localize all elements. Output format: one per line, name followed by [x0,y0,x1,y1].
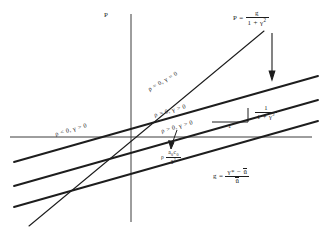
equation-p-lhs: P = [233,15,244,22]
slope-denominator: 1 + γ2 [255,113,277,121]
slope-triangle [212,108,248,122]
equation-p-fraction: g 1 + γ2 [246,10,269,27]
equation-g-fraction: γ* − ū ū [225,168,249,185]
slope-fraction: 1 1 + γ2 [255,105,277,120]
intercept-annotation: ρ a0c0 ā2 [161,150,181,166]
equation-g-definition: g = γ* − ū ū [213,168,249,185]
axis-label-p: P [104,12,108,19]
equation-p-denominator: 1 + γ2 [246,18,269,27]
intercept-denominator: ā2 [166,158,181,165]
intercept-rho: ρ [161,155,164,161]
down-arrow [269,33,275,80]
equation-g-denominator: ū [225,177,249,185]
intercept-fraction: a0c0 ā2 [166,150,181,166]
equation-g-lhs: g = [213,173,223,180]
slope-run-label: 1 [228,123,232,129]
equation-g-numerator: γ* − ū [225,168,249,177]
slope-value-label: 1 1 + γ2 [255,105,277,120]
equation-p-numerator: g [246,10,269,18]
equation-p-definition: P = g 1 + γ2 [233,10,269,27]
